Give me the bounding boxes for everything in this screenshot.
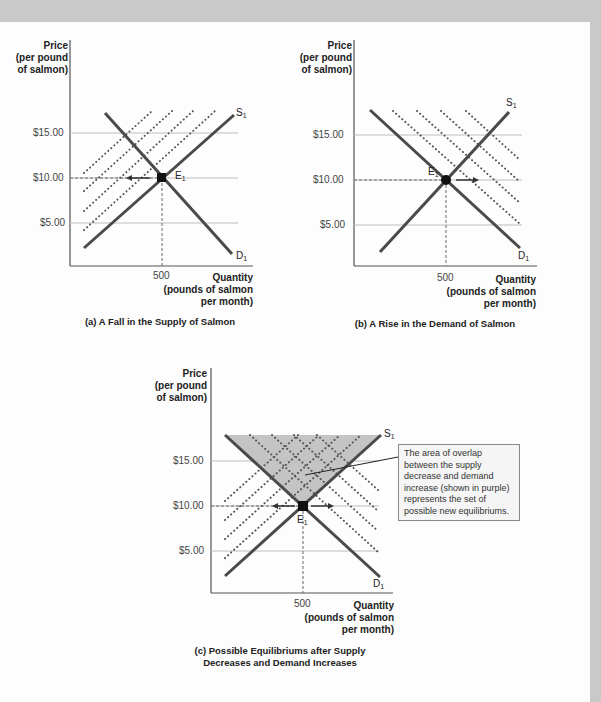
curve-label-d1: D1 — [236, 250, 247, 265]
y-tick-5: $5.00 — [40, 217, 65, 229]
curve-label-s1: S1 — [506, 97, 517, 112]
chart-b: Price(per poundof salmon) $15.00 $10.00 … — [300, 0, 600, 340]
curve-label-s1: S1 — [384, 428, 395, 443]
equilibrium-label: E1 — [175, 170, 186, 185]
y-tick-5: $5.00 — [179, 545, 204, 557]
y-tick-10: $10.00 — [173, 500, 204, 512]
chart-a: Price(per poundof salmon) $15.00 $10.00 … — [0, 0, 300, 340]
y-tick-15: $15.00 — [313, 129, 344, 141]
y-tick-10: $10.00 — [313, 174, 344, 186]
y-tick-5: $5.00 — [320, 219, 345, 231]
equilibrium-label: E1 — [428, 166, 439, 181]
y-tick-15: $15.00 — [33, 127, 64, 139]
caption-c: (c) Possible Equilibriums after SupplyDe… — [170, 645, 390, 669]
y-tick-10: $10.00 — [33, 172, 64, 184]
curve-label-d1: D1 — [373, 578, 384, 593]
x-axis-label: Quantity(pounds of salmonper month) — [164, 272, 253, 308]
curve-label-d1: D1 — [518, 250, 529, 265]
caption-a: (a) A Fall in the Supply of Salmon — [60, 316, 260, 328]
equilibrium-label: E1 — [297, 514, 308, 529]
chart-c: Price(per poundof salmon) $15.00 $10.00 — [130, 360, 430, 680]
curve-label-s1: S1 — [236, 107, 247, 122]
annotation-callout: The area of overlap between the supply d… — [398, 444, 520, 521]
y-tick-15: $15.00 — [173, 455, 204, 467]
x-axis-label: Quantity(pounds of salmonper month) — [447, 274, 536, 310]
x-axis-label: Quantity(pounds of salmonper month) — [305, 600, 394, 636]
caption-b: (b) A Rise in the Demand of Salmon — [330, 318, 540, 330]
chart-a-plot — [0, 0, 300, 340]
